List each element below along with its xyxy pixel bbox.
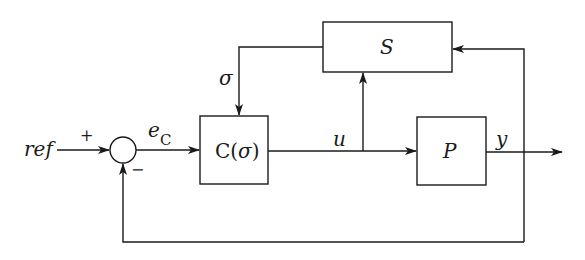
y-label: y — [495, 127, 508, 151]
minus-sign: − — [131, 160, 144, 179]
plant-label: P — [442, 139, 457, 163]
error-label-subscript: C — [160, 131, 171, 149]
sigma-label: σ — [219, 66, 234, 90]
error-label-base: e — [148, 118, 160, 142]
controller-label-c: C(σ) — [215, 139, 260, 163]
supervisor-label: S — [380, 35, 394, 59]
sigma-signal-arrow — [239, 47, 323, 115]
u-label: u — [333, 127, 346, 151]
plus-sign: + — [80, 126, 93, 145]
block-diagram: ref + − e C C(σ) S P σ u y — [0, 0, 585, 260]
ref-label: ref — [24, 137, 56, 161]
